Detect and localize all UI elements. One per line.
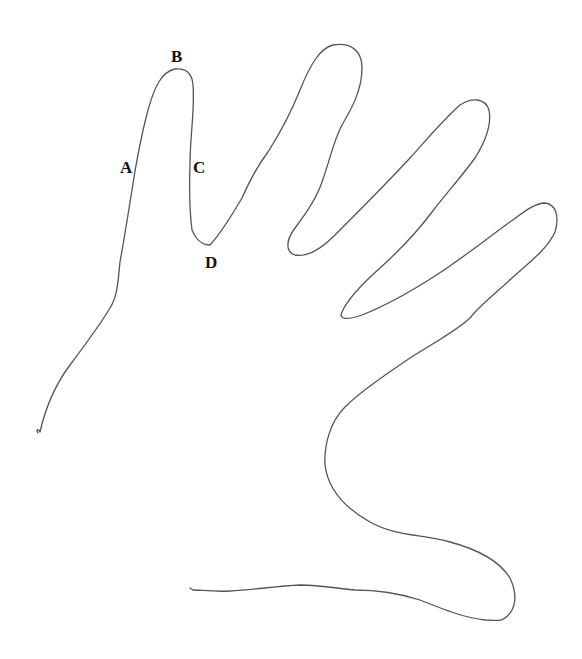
hand-outline-drawing bbox=[0, 0, 582, 659]
label-c: C bbox=[193, 159, 205, 176]
label-a: A bbox=[120, 159, 132, 176]
hand-outline-path bbox=[37, 44, 557, 620]
label-b: B bbox=[171, 48, 182, 65]
label-d: D bbox=[205, 254, 217, 271]
